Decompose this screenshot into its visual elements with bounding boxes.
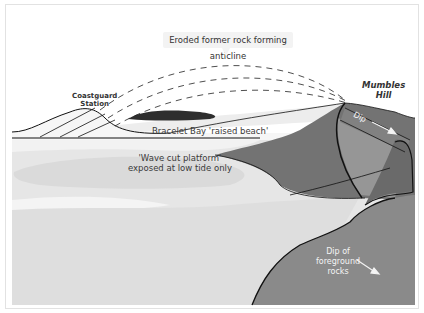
raised-beach-label: Bracelet Bay 'raised beach' [152, 126, 268, 136]
foreground-dip-line1: Dip of [316, 247, 360, 257]
wave-cut-platform-label: 'Wave cut platform' exposed at low tide … [128, 153, 232, 173]
black-outcrop [128, 110, 215, 120]
callout-pointer [222, 48, 230, 56]
foreground-dip-label: Dip of foreground rocks [316, 247, 360, 277]
mumbles-hill-label: Mumbles Hill [362, 80, 405, 100]
anticline-callout: Eroded former rock forming anticline [163, 32, 293, 48]
foreground-dip-line2: foreground [316, 257, 360, 267]
coastguard-station-label: Coastguard Station [72, 92, 117, 108]
wave-cut-line1: 'Wave cut platform' [128, 153, 232, 163]
coastguard-label-line2: Station [72, 100, 117, 108]
wave-cut-line2: exposed at low tide only [128, 163, 232, 173]
mumbles-label-line1: Mumbles [362, 80, 405, 90]
coastguard-label-line1: Coastguard [72, 92, 117, 100]
foreground-dip-line3: rocks [316, 267, 360, 277]
mumbles-label-line2: Hill [362, 90, 405, 100]
